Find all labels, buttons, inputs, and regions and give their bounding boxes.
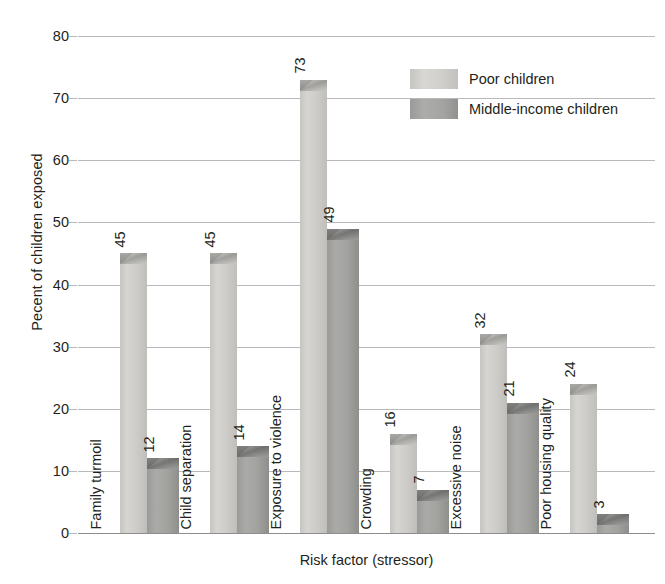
legend-label: Poor children	[469, 71, 554, 87]
category-label: Crowding	[359, 468, 374, 529]
legend-swatch	[410, 69, 458, 89]
category-label: Excessive noise	[449, 425, 464, 529]
bar-value-label: 45	[202, 231, 217, 247]
y-tick-mark	[69, 347, 77, 348]
bar-bevel-corner	[327, 229, 340, 240]
y-tick-mark	[69, 160, 77, 161]
y-tick-mark	[69, 36, 77, 37]
y-tick-mark	[69, 222, 77, 223]
bar-bevel-corner	[570, 384, 583, 395]
legend-item[interactable]: Middle-income children	[410, 96, 618, 122]
y-tick-label: 10	[31, 464, 69, 479]
bar[interactable]	[570, 384, 597, 533]
y-tick-label: 80	[31, 29, 69, 44]
gridline	[78, 160, 655, 161]
category-label: Family turmoil	[89, 439, 104, 529]
y-axis-title: Pecent of children exposed	[29, 112, 45, 372]
bar-bevel-corner	[480, 334, 493, 345]
bar-face	[480, 334, 507, 533]
bar-value-label: 12	[142, 436, 157, 452]
bar[interactable]	[210, 253, 237, 533]
bar-value-label: 3	[592, 500, 607, 508]
bar-face	[507, 403, 539, 533]
bar-value-label: 16	[382, 411, 397, 427]
y-tick-label: 70	[31, 91, 69, 106]
bar-bevel-corner	[120, 253, 133, 264]
bar-face	[300, 80, 327, 534]
bar-bevel-corner	[390, 434, 403, 445]
bar-bevel-corner	[507, 403, 520, 414]
bar-face	[147, 458, 179, 533]
gridline	[78, 222, 655, 223]
bar[interactable]	[237, 446, 269, 533]
gridline	[78, 409, 655, 410]
bar[interactable]	[327, 229, 359, 533]
y-tick-label: 60	[31, 153, 69, 168]
bar[interactable]	[480, 334, 507, 533]
bar-face	[327, 229, 359, 533]
y-tick-label: 40	[31, 278, 69, 293]
bar-value-label: 21	[502, 380, 517, 396]
category-label: Exposure to violence	[269, 394, 284, 529]
bar-face	[210, 253, 237, 533]
gridline	[78, 347, 655, 348]
y-tick-label: 20	[31, 402, 69, 417]
gridline	[78, 36, 655, 37]
legend-label: Middle-income children	[469, 101, 618, 117]
axis-baseline	[78, 533, 655, 534]
bar[interactable]	[147, 458, 179, 533]
bar-chart: Pecent of children exposed 0102030405060…	[0, 0, 665, 584]
bar-bevel-corner	[300, 80, 313, 91]
bar-value-label: 14	[232, 424, 247, 440]
bar[interactable]	[120, 253, 147, 533]
y-tick-mark	[69, 285, 77, 286]
chart-legend: Poor childrenMiddle-income children	[410, 66, 618, 126]
bar[interactable]	[507, 403, 539, 533]
category-label: Poor housing quality	[539, 398, 554, 529]
y-tick-mark	[69, 533, 77, 534]
bar-bevel-corner	[210, 253, 223, 264]
bar-value-label: 45	[112, 231, 127, 247]
bar-face	[570, 384, 597, 533]
y-tick-mark	[69, 471, 77, 472]
bar-value-label: 7	[412, 475, 427, 483]
y-tick-mark	[69, 409, 77, 410]
bar-bevel-corner	[417, 490, 430, 501]
y-tick-label: 30	[31, 340, 69, 355]
legend-swatch	[410, 99, 458, 119]
category-label: Child separation	[179, 424, 194, 529]
bar[interactable]	[417, 490, 449, 533]
bar-value-label: 24	[562, 362, 577, 378]
y-tick-mark	[69, 98, 77, 99]
bar[interactable]	[597, 514, 629, 533]
bar-value-label: 49	[322, 206, 337, 222]
y-tick-label: 50	[31, 215, 69, 230]
bar-value-label: 32	[472, 312, 487, 328]
bar-bevel-corner	[597, 514, 610, 525]
bar[interactable]	[300, 80, 327, 534]
x-axis-title: Risk factor (stressor)	[78, 552, 655, 568]
bar-value-label: 73	[292, 57, 307, 73]
bar-bevel-corner	[237, 446, 250, 457]
legend-item[interactable]: Poor children	[410, 66, 618, 92]
y-tick-label: 0	[31, 526, 69, 541]
gridline	[78, 285, 655, 286]
bar-face	[120, 253, 147, 533]
bar-bevel-corner	[147, 458, 160, 469]
bar-face	[237, 446, 269, 533]
